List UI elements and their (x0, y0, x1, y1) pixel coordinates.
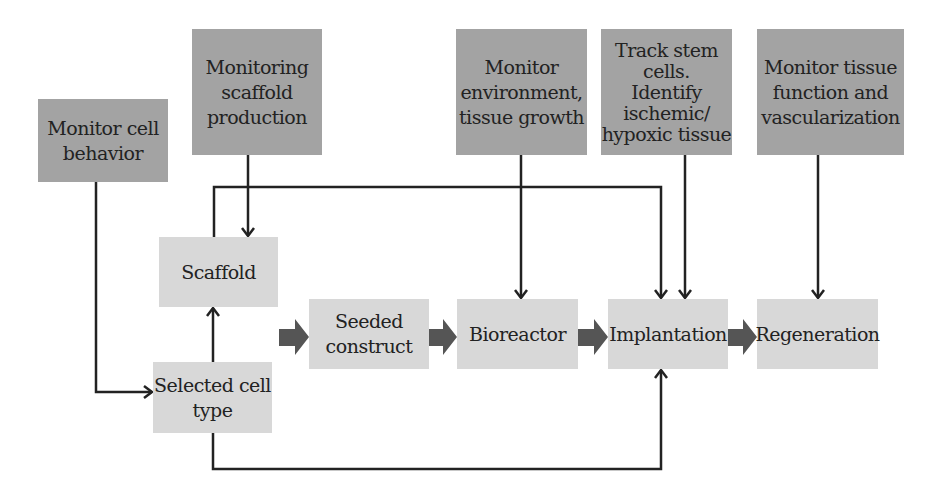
arrow-selected-cell-to-implantation (213, 370, 661, 469)
regeneration-box: Regeneration (757, 299, 878, 369)
bioreactor-box: Bioreactor (457, 299, 578, 369)
seeded-construct-box: Seeded construct (309, 299, 429, 369)
monitor-cell-behavior-box: Monitor cell behavior (38, 99, 168, 182)
track-stem-cells-box: Track stem cells. Identify ischemic/ hyp… (601, 29, 732, 155)
scaffold-box: Scaffold (159, 237, 278, 307)
block-arrow-3 (578, 319, 608, 355)
monitor-scaffold-production-box: Monitoring scaffold production (192, 29, 322, 155)
implantation-box: Implantation (608, 299, 728, 369)
arrow-cell-behavior-to-selected-cell (96, 182, 152, 392)
arrow-scaffold-to-implantation (214, 187, 661, 298)
block-arrow-4 (728, 319, 757, 355)
tissue-engineering-flow-diagram: Monitor cell behavior Monitoring scaffol… (0, 0, 933, 496)
block-arrow-1 (279, 319, 309, 355)
block-arrow-2 (429, 319, 457, 355)
monitor-tissue-function-box: Monitor tissue function and vascularizat… (757, 29, 904, 155)
monitor-environment-box: Monitor environment, tissue growth (456, 29, 587, 155)
selected-cell-type-box: Selected cell type (153, 362, 272, 433)
